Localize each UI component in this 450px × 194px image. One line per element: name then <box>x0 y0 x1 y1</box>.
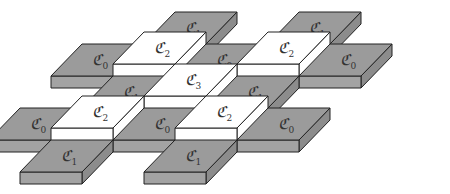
tile-front-face <box>144 172 206 184</box>
tile-label-subscript: 0 <box>165 125 171 135</box>
tiles-group: ℭ1ℭ1ℭ0ℭ2ℭ0ℭ2ℭ0ℭ1ℭ3ℭ1ℭ0ℭ2ℭ0ℭ2ℭ0ℭ1ℭ1 <box>0 12 392 184</box>
tile-front-face <box>299 76 361 88</box>
tile-front-face <box>237 140 299 152</box>
tile-label-subscript: 2 <box>289 49 295 59</box>
tile-label-subscript: 0 <box>351 61 357 71</box>
tile-label-subscript: 1 <box>196 157 202 167</box>
tile-label-subscript: 2 <box>227 113 233 123</box>
tile-label-subscript: 0 <box>41 125 47 135</box>
tile-label-subscript: 2 <box>165 49 171 59</box>
tile-front-face <box>20 172 82 184</box>
tile-diagram: ℭ1ℭ1ℭ0ℭ2ℭ0ℭ2ℭ0ℭ1ℭ3ℭ1ℭ0ℭ2ℭ0ℭ2ℭ0ℭ1ℭ1 <box>0 0 450 194</box>
tile-label-subscript: 3 <box>196 81 202 91</box>
tile-label-subscript: 0 <box>103 61 109 71</box>
tile-label-subscript: 0 <box>289 125 295 135</box>
tile-label-subscript: 1 <box>72 157 78 167</box>
tile-label-subscript: 2 <box>103 113 109 123</box>
